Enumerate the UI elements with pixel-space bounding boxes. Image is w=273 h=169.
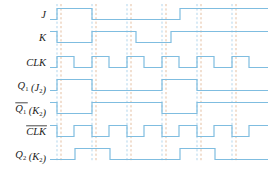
waveform-K — [50, 32, 268, 43]
waveform-layer — [50, 9, 268, 160]
label-text: ) — [42, 84, 47, 96]
signal-label-Q1: Q1 (J2) — [18, 80, 47, 96]
waveform-Q1bar — [50, 103, 268, 114]
label-text: CLK — [26, 57, 47, 68]
signal-label-J: J — [41, 9, 47, 20]
signal-label-Q1bar: Q1 (K2) — [15, 103, 46, 119]
waveform-Q2 — [50, 149, 268, 160]
waveform-Q1 — [50, 80, 268, 91]
timing-diagram-figure: JKCLKQ1 (J2)Q1 (K2)CLKQ2 (K2) — [0, 0, 273, 169]
gridline-layer — [57, 4, 236, 162]
waveform-J — [50, 9, 268, 20]
signal-label-K: K — [38, 32, 47, 43]
label-text: CLK — [26, 126, 47, 137]
signal-label-CLKbar: CLK — [26, 126, 47, 137]
waveform-CLK — [50, 57, 268, 68]
signal-label-Q2: Q2 (K2) — [15, 149, 46, 165]
label-text: (K — [26, 105, 40, 117]
signal-label-CLK: CLK — [26, 57, 47, 68]
label-text: J — [41, 9, 47, 20]
label-text: ) — [42, 107, 47, 119]
label-text: ) — [42, 153, 47, 165]
signal-label-layer: JKCLKQ1 (J2)Q1 (K2)CLKQ2 (K2) — [15, 9, 47, 165]
timing-diagram-canvas: JKCLKQ1 (J2)Q1 (K2)CLKQ2 (K2) — [0, 0, 273, 169]
waveform-CLKbar — [50, 126, 268, 137]
label-text: K — [38, 32, 47, 43]
label-text: (K — [26, 151, 40, 163]
